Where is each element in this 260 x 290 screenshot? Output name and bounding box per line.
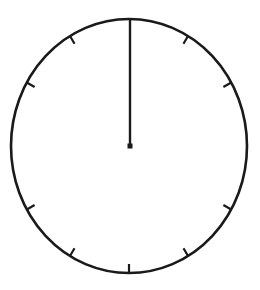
hour-tick-11 — [70, 36, 75, 44]
clock-widget — [0, 0, 260, 290]
hour-tick-4 — [223, 205, 231, 210]
hour-tick-5 — [184, 248, 189, 256]
center-hub-dot — [128, 144, 133, 149]
clock-dial-canvas — [0, 0, 260, 290]
hour-tick-10 — [27, 83, 35, 88]
hour-tick-7 — [70, 248, 75, 256]
hour-tick-8 — [27, 205, 35, 210]
hour-tick-2 — [223, 83, 231, 88]
hour-tick-1 — [184, 36, 189, 44]
